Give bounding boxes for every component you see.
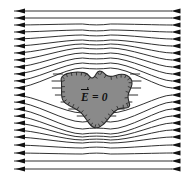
arrowhead-right-20	[171, 142, 181, 147]
arrowhead-right-12	[171, 85, 181, 90]
arrowhead-left-1	[16, 8, 26, 13]
arrowhead-left-21	[16, 150, 26, 155]
arrowhead-right-16	[171, 113, 181, 118]
field-line-5	[14, 35, 172, 39]
arrowhead-left-13	[16, 92, 26, 97]
field-line-21	[14, 153, 172, 154]
arrowhead-right-21	[171, 150, 181, 155]
arrowhead-right-4	[171, 29, 181, 34]
field-line-19	[14, 137, 172, 143]
arrowhead-left-9	[16, 64, 26, 69]
arrowhead-right-11	[171, 78, 181, 83]
arrowhead-left-18	[16, 127, 26, 132]
arrowhead-right-15	[171, 106, 181, 111]
arrowhead-right-22	[171, 158, 181, 163]
arrowhead-left-23	[16, 166, 26, 171]
arrowhead-right-10	[171, 71, 181, 76]
arrowhead-left-10	[16, 71, 26, 76]
arrowhead-left-7	[16, 50, 26, 55]
arrowhead-right-13	[171, 92, 181, 97]
arrowhead-right-3	[171, 22, 181, 27]
arrowhead-left-20	[16, 142, 26, 147]
field-line-3	[14, 24, 172, 25]
arrowhead-right-2	[171, 15, 181, 20]
arrowhead-right-17	[171, 120, 181, 125]
arrowhead-left-5	[16, 36, 26, 41]
arrowhead-left-22	[16, 158, 26, 163]
arrowhead-right-8	[171, 57, 181, 62]
field-line-10	[14, 58, 172, 74]
arrowhead-left-15	[16, 106, 26, 111]
conductor-shape	[61, 71, 132, 128]
field-line-20	[14, 145, 172, 148]
arrowhead-right-9	[171, 64, 181, 69]
arrowhead-right-19	[171, 134, 181, 139]
arrowhead-right-7	[171, 50, 181, 55]
surface-hash-4	[71, 73, 72, 76]
arrowhead-right-6	[171, 43, 181, 48]
field-line-4	[14, 30, 172, 32]
arrowhead-left-19	[16, 134, 26, 139]
arrowhead-right-23	[171, 166, 181, 171]
arrowhead-right-18	[171, 127, 181, 132]
arrowhead-left-3	[16, 22, 26, 27]
arrowhead-left-16	[16, 113, 26, 118]
arrowhead-left-2	[16, 15, 26, 20]
arrowhead-left-4	[16, 29, 26, 34]
arrowhead-left-6	[16, 43, 26, 48]
arrowhead-left-8	[16, 57, 26, 62]
arrowhead-right-1	[171, 8, 181, 13]
arrowhead-left-14	[16, 99, 26, 104]
arrowhead-right-14	[171, 99, 181, 104]
arrowhead-left-12	[16, 85, 26, 90]
field-diagram: E = 0	[0, 0, 186, 181]
field-lines-canvas	[0, 0, 186, 181]
arrowhead-left-17	[16, 120, 26, 125]
arrowhead-left-11	[16, 78, 26, 83]
arrowhead-right-5	[171, 36, 181, 41]
